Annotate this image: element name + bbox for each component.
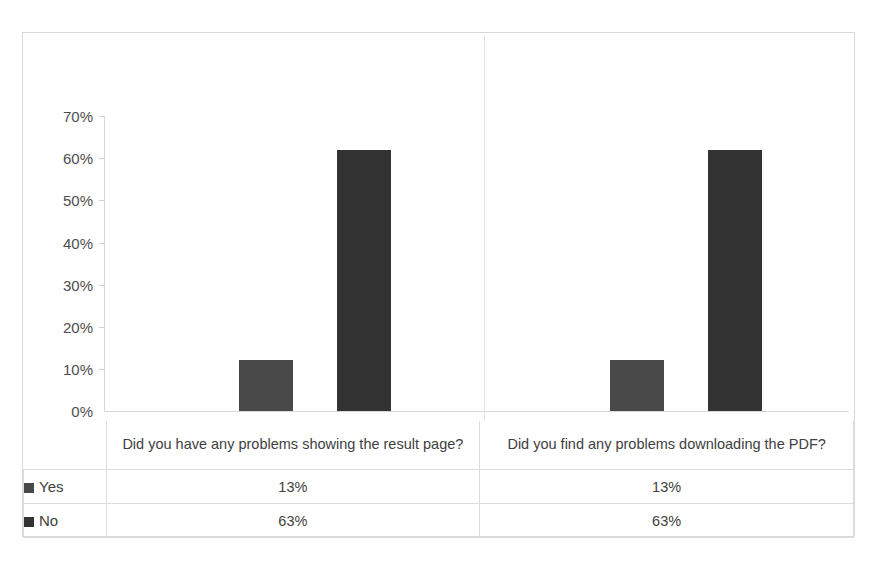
y-tick-label: 20%: [63, 320, 93, 335]
legend-label-no: No: [39, 512, 58, 529]
bar-yes-group2: [610, 360, 664, 411]
plot-area: 70% 60% 50% 40% 30% 20% 10% 0%: [23, 33, 854, 421]
y-tick-label: 40%: [63, 236, 93, 251]
value-yes-group1: 13%: [106, 470, 480, 504]
legend-item-no: No: [24, 504, 107, 538]
y-tick-mark: [99, 243, 104, 244]
y-tick-mark: [99, 285, 104, 286]
table-row-categories: Did you have any problems showing the re…: [24, 421, 854, 470]
legend-swatch-icon: [24, 483, 34, 493]
bar-yes-group1: [239, 360, 293, 411]
y-tick-label: 60%: [63, 151, 93, 166]
table-corner-cell: [24, 421, 107, 470]
legend-item-yes: Yes: [24, 470, 107, 504]
legend-label-yes: Yes: [39, 478, 63, 495]
y-axis: 70% 60% 50% 40% 30% 20% 10% 0%: [23, 33, 99, 421]
bar-no-group2: [708, 150, 762, 411]
legend-swatch-icon: [24, 517, 34, 527]
category-header-2: Did you find any problems downloading th…: [480, 421, 854, 470]
table-row: No 63% 63%: [24, 504, 854, 538]
chart-container: 70% 60% 50% 40% 30% 20% 10% 0%: [22, 32, 855, 537]
table-row: Yes 13% 13%: [24, 470, 854, 504]
y-tick-label: 0%: [71, 404, 93, 419]
value-no-group2: 63%: [480, 504, 854, 538]
category-group-divider: [484, 35, 485, 421]
y-tick-mark: [99, 158, 104, 159]
bar-no-group1: [337, 150, 391, 411]
data-table: Did you have any problems showing the re…: [23, 421, 854, 536]
y-tick-mark: [99, 327, 104, 328]
bars-canvas: [105, 116, 849, 411]
x-axis-line: [104, 411, 849, 412]
y-tick-label: 30%: [63, 278, 93, 293]
y-tick-mark: [99, 200, 104, 201]
y-tick-mark: [99, 369, 104, 370]
category-header-1: Did you have any problems showing the re…: [106, 421, 480, 470]
value-no-group1: 63%: [106, 504, 480, 538]
value-yes-group2: 13%: [480, 470, 854, 504]
y-tick-label: 50%: [63, 193, 93, 208]
y-tick-label: 70%: [63, 109, 93, 124]
y-tick-mark: [99, 116, 104, 117]
y-tick-label: 10%: [63, 362, 93, 377]
